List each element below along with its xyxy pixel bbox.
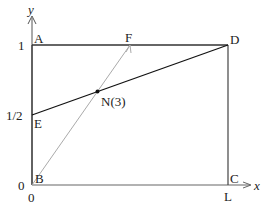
y-tick-0: 0	[18, 178, 25, 193]
label-E: E	[34, 116, 42, 131]
label-N: N(3)	[101, 94, 126, 109]
label-C: C	[230, 171, 239, 186]
label-A: A	[34, 31, 44, 46]
label-D: D	[230, 32, 239, 47]
y-axis-label: y	[26, 2, 34, 17]
label-B: B	[35, 171, 44, 186]
segment-BF	[32, 45, 130, 185]
segment-ED	[32, 45, 228, 115]
x-axis-label: x	[253, 178, 260, 193]
point-N	[96, 90, 100, 94]
x-tick-0: 0	[28, 190, 35, 205]
y-tick-1: 1	[18, 38, 25, 53]
label-F: F	[125, 30, 132, 45]
diagram-canvas: y x 1 1/2 0 0 A F D E N(3) B C L	[0, 0, 273, 209]
label-L: L	[224, 189, 232, 204]
y-tick-half: 1/2	[6, 108, 23, 123]
